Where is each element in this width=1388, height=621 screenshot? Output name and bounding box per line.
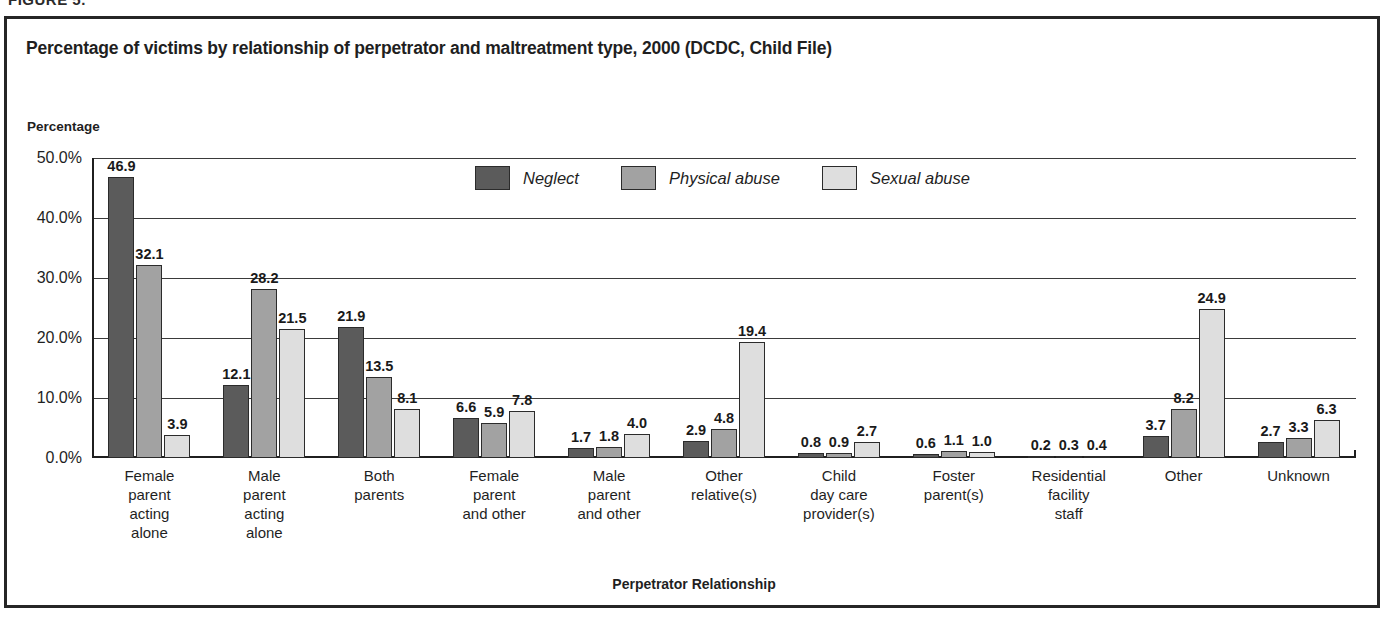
bar-value-label: 8.2	[1174, 390, 1194, 406]
bar-value-label: 1.1	[944, 432, 964, 448]
legend-item: Sexual abuse	[822, 166, 970, 190]
y-tick-label: 40.0%	[37, 209, 82, 227]
bar	[453, 418, 479, 458]
x-tick-label: Female parent and other	[462, 466, 525, 523]
legend-label: Sexual abuse	[870, 169, 970, 188]
bar	[1084, 456, 1110, 458]
y-axis-tick-labels: 0.0%10.0%20.0%30.0%40.0%50.0%	[10, 158, 82, 458]
bar	[913, 454, 939, 458]
bar-group: 0.20.30.4	[1028, 158, 1110, 458]
x-tick-label: Other	[1165, 466, 1203, 485]
bar	[711, 429, 737, 458]
bar	[1028, 456, 1054, 458]
legend-swatch	[822, 166, 857, 190]
bar-value-label: 6.3	[1316, 401, 1336, 417]
bar-value-label: 1.7	[571, 429, 591, 445]
x-tick-label: Male parent and other	[577, 466, 640, 523]
bar	[683, 441, 709, 458]
bar-value-label: 12.1	[222, 366, 250, 382]
bar-group: 2.94.819.4	[683, 158, 765, 458]
legend-swatch	[621, 166, 656, 190]
bar-value-label: 46.9	[107, 158, 135, 174]
bar-value-label: 3.9	[167, 416, 187, 432]
bar	[1171, 409, 1197, 458]
y-tick-label: 10.0%	[37, 389, 82, 407]
bar-group: 3.78.224.9	[1143, 158, 1225, 458]
bar	[509, 411, 535, 458]
x-tick-label: Unknown	[1267, 466, 1330, 485]
bar-group: 1.71.84.0	[568, 158, 650, 458]
bar	[136, 265, 162, 458]
bar-value-label: 0.9	[829, 434, 849, 450]
x-tick-label: Male parent acting alone	[243, 466, 286, 542]
bar-value-label: 21.9	[337, 308, 365, 324]
bar-value-label: 0.2	[1031, 437, 1051, 453]
bar	[251, 289, 277, 458]
bar	[108, 177, 134, 458]
bar-value-label: 0.3	[1059, 437, 1079, 453]
bar-value-label: 8.1	[397, 390, 417, 406]
bar	[1258, 442, 1284, 458]
bar	[1056, 456, 1082, 458]
bar	[1314, 420, 1340, 458]
bar-group: 0.80.92.7	[798, 158, 880, 458]
bar-value-label: 32.1	[135, 246, 163, 262]
bar-value-label: 4.8	[714, 410, 734, 426]
bar	[596, 447, 622, 458]
bar-value-label: 0.4	[1087, 437, 1107, 453]
x-axis-end-cap	[1354, 450, 1356, 458]
plot-area: 46.932.13.912.128.221.521.913.58.16.65.9…	[92, 158, 1356, 458]
bar-group: 12.128.221.5	[223, 158, 305, 458]
bar-value-label: 0.8	[801, 434, 821, 450]
bar-group: 0.61.11.0	[913, 158, 995, 458]
bar-value-label: 1.8	[599, 428, 619, 444]
legend-item: Neglect	[475, 166, 579, 190]
bar	[854, 442, 880, 458]
bar	[826, 453, 852, 458]
bar-value-label: 4.0	[627, 415, 647, 431]
x-tick-label: Other relative(s)	[691, 466, 757, 504]
bar-value-label: 21.5	[278, 310, 306, 326]
legend: NeglectPhysical abuseSexual abuse	[475, 166, 970, 190]
bar	[481, 423, 507, 458]
bar-group: 21.913.58.1	[338, 158, 420, 458]
bar	[1286, 438, 1312, 458]
x-tick-label: Female parent acting alone	[124, 466, 174, 542]
y-tick-label: 30.0%	[37, 269, 82, 287]
figure-caption: FIGURE 5.	[8, 0, 86, 8]
bar-group: 2.73.36.3	[1258, 158, 1340, 458]
y-tick-label: 0.0%	[46, 449, 82, 467]
bar-groups: 46.932.13.912.128.221.521.913.58.16.65.9…	[92, 158, 1356, 458]
bar	[739, 342, 765, 458]
bar	[279, 329, 305, 458]
legend-swatch	[475, 166, 510, 190]
bar-value-label: 6.6	[456, 399, 476, 415]
legend-label: Physical abuse	[669, 169, 780, 188]
bar-value-label: 2.9	[686, 422, 706, 438]
bar	[164, 435, 190, 458]
bar-value-label: 5.9	[484, 404, 504, 420]
y-tick-label: 50.0%	[37, 149, 82, 167]
legend-label: Neglect	[523, 169, 579, 188]
chart-title: Percentage of victims by relationship of…	[26, 38, 832, 59]
bar	[624, 434, 650, 458]
bar-value-label: 7.8	[512, 392, 532, 408]
y-tick-label: 20.0%	[37, 329, 82, 347]
bar	[941, 451, 967, 458]
x-tick-label: Residential facility staff	[1032, 466, 1106, 523]
x-tick-label: Foster parent(s)	[924, 466, 984, 504]
bar-value-label: 0.6	[916, 435, 936, 451]
bar	[1199, 309, 1225, 458]
bar	[568, 448, 594, 458]
x-tick-label: Child day care provider(s)	[803, 466, 875, 523]
bar	[969, 452, 995, 458]
legend-item: Physical abuse	[621, 166, 780, 190]
x-tick-label: Both parents	[354, 466, 404, 504]
bar	[798, 453, 824, 458]
bar-value-label: 3.7	[1146, 417, 1166, 433]
bar-value-label: 24.9	[1198, 290, 1226, 306]
bar-value-label: 3.3	[1288, 419, 1308, 435]
y-axis-title: Percentage	[27, 119, 100, 134]
x-axis-category-labels: Female parent acting aloneMale parent ac…	[92, 466, 1356, 561]
bar-value-label: 28.2	[250, 270, 278, 286]
